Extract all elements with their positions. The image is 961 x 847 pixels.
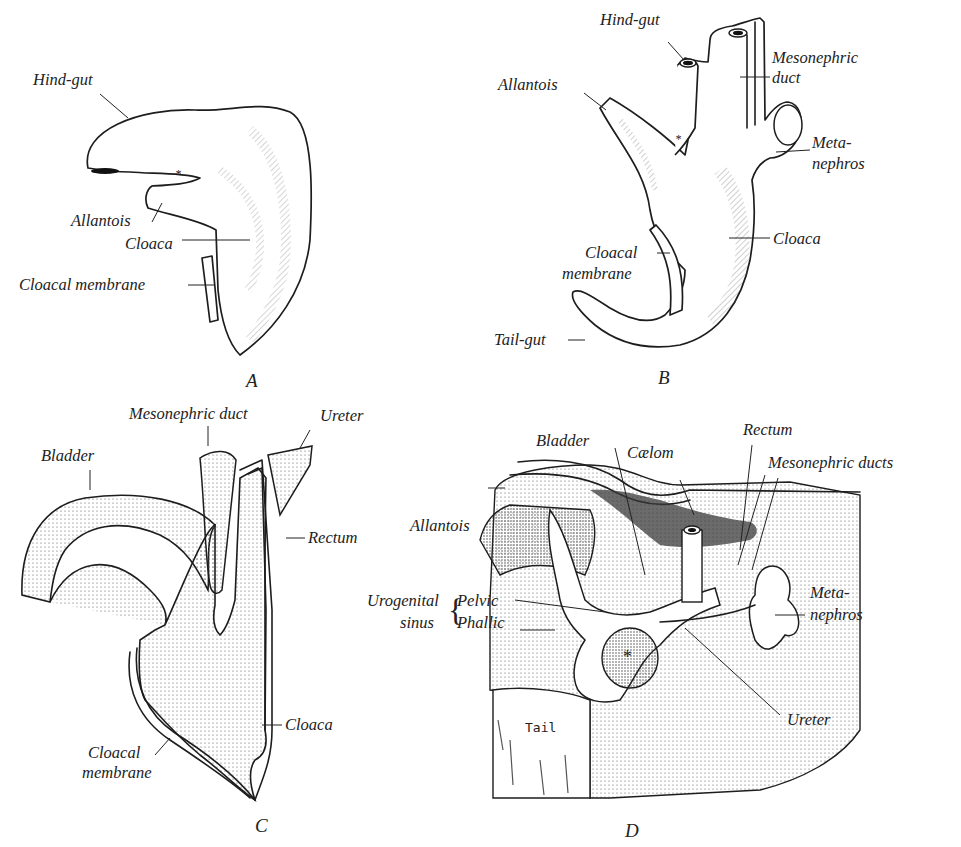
- label-b-cloacal-membrane-1: Cloacal: [585, 245, 637, 262]
- label-d-phallic: Phallic: [457, 615, 505, 632]
- label-b-asterisk: *: [675, 133, 681, 145]
- label-d-allantois: Allantois: [410, 518, 470, 535]
- label-b-metanephros-2: nephros: [812, 156, 865, 173]
- label-b-mesonephric-duct-2: duct: [772, 70, 800, 87]
- label-b-tail-gut: Tail-gut: [494, 332, 546, 349]
- panel-d: Bladder Cælom Rectum Mesonephric ducts A…: [360, 400, 961, 847]
- panel-c: Mesonephric duct Ureter Bladder Rectum C…: [0, 390, 400, 847]
- label-b-cloaca: Cloaca: [773, 231, 821, 248]
- label-d-metanephros-1: Meta-: [810, 585, 849, 602]
- label-d-urogenital: Urogenital: [367, 593, 439, 610]
- label-b-allantois: Allantois: [498, 77, 558, 94]
- panel-b: * Hind-gut Allantois Mesonephric duct Me…: [470, 0, 890, 400]
- label-a-asterisk: *: [175, 168, 181, 180]
- label-a-cloacal-membrane: Cloacal membrane: [19, 277, 145, 294]
- label-b-cloacal-membrane-2: membrane: [562, 266, 632, 283]
- label-c-ureter: Ureter: [320, 408, 363, 425]
- label-a-hind-gut: Hind-gut: [33, 72, 93, 89]
- label-b-mesonephric-duct-1: Mesonephric: [772, 50, 858, 67]
- panel-a-drawing: [0, 0, 330, 400]
- label-d-pelvic: Pelvic: [457, 593, 498, 610]
- panel-c-label: C: [255, 815, 268, 837]
- label-d-ureter: Ureter: [787, 712, 830, 729]
- label-a-allantois: Allantois: [71, 213, 131, 230]
- label-b-metanephros-1: Meta-: [812, 135, 851, 152]
- panel-a-label: A: [246, 370, 258, 392]
- label-b-hind-gut: Hind-gut: [600, 12, 660, 29]
- label-d-bladder: Bladder: [536, 433, 589, 450]
- label-a-cloaca: Cloaca: [125, 236, 173, 253]
- label-c-cloacal-membrane-1: Cloacal: [88, 745, 140, 762]
- label-c-mesonephric-duct: Mesonephric duct: [129, 406, 248, 423]
- label-d-mesonephric-ducts: Mesonephric ducts: [768, 455, 893, 472]
- label-c-cloaca: Cloaca: [285, 717, 333, 734]
- label-c-cloacal-membrane-2: membrane: [82, 765, 152, 782]
- panel-d-label: D: [625, 820, 639, 842]
- panel-b-label: B: [658, 367, 670, 389]
- label-c-bladder: Bladder: [41, 448, 94, 465]
- label-d-sinus: sinus: [400, 615, 434, 632]
- label-d-asterisk: *: [622, 648, 631, 666]
- label-d-rectum: Rectum: [743, 422, 792, 439]
- label-d-tail: Tail: [525, 720, 556, 735]
- panel-a: * Hind-gut Allantois Cloaca Cloacal memb…: [0, 0, 330, 400]
- label-d-metanephros-2: nephros: [810, 607, 863, 624]
- label-c-rectum: Rectum: [308, 530, 357, 547]
- label-d-coelom: Cælom: [627, 445, 674, 462]
